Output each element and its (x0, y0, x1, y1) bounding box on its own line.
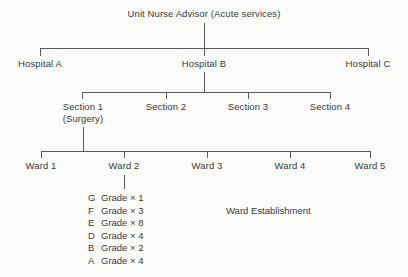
grade-row: G Grade × 1 (88, 192, 144, 205)
grade-letter: B (88, 242, 101, 255)
connector-section-bus (82, 92, 330, 93)
connector-section-1-to-wards (83, 127, 84, 151)
node-ward-4: Ward 4 (275, 160, 306, 172)
grade-row: D Grade × 4 (88, 230, 144, 243)
grade-letter: A (88, 255, 101, 268)
node-unit-nurse-advisor: Unit Nurse Advisor (Acute services) (128, 8, 281, 20)
node-ward-3: Ward 3 (192, 160, 223, 172)
connector-stub-section-3 (248, 92, 249, 99)
grade-row: F Grade × 3 (88, 205, 144, 218)
node-section-1-line2: (Surgery) (63, 113, 104, 125)
connector-stub-section-1 (82, 92, 83, 99)
node-ward-5: Ward 5 (355, 160, 386, 172)
node-hospital-a: Hospital A (18, 58, 62, 70)
ward-establishment-caption: Ward Establishment (226, 205, 311, 216)
grade-row: E Grade × 8 (88, 217, 144, 230)
grade-letter: E (88, 217, 101, 230)
grade-row: A Grade × 4 (88, 255, 144, 268)
node-hospital-b: Hospital B (182, 58, 226, 70)
grade-count: Grade × 8 (101, 217, 144, 230)
node-hospital-c: Hospital C (346, 58, 391, 70)
connector-ward-bus (41, 151, 370, 152)
connector-ward-2-to-establishment (124, 175, 125, 189)
node-ward-1: Ward 1 (26, 160, 57, 172)
connector-root-to-hospitals (204, 23, 205, 48)
node-section-4: Section 4 (310, 101, 351, 113)
org-chart-diagram: Unit Nurse Advisor (Acute services) Hosp… (0, 0, 408, 277)
connector-stub-section-4 (330, 92, 331, 99)
connector-hospital-b-to-sections (204, 72, 205, 92)
grade-letter: D (88, 230, 101, 243)
node-ward-2: Ward 2 (109, 160, 140, 172)
grade-count: Grade × 1 (101, 192, 144, 205)
node-section-3: Section 3 (228, 101, 269, 113)
connector-stub-section-2 (166, 92, 167, 99)
connector-stub-hospital-a (40, 48, 41, 56)
connector-stub-hospital-b (204, 48, 205, 56)
ward-establishment-grade-list: G Grade × 1 F Grade × 3 E Grade × 8 D Gr… (88, 192, 144, 268)
connector-stub-ward-5 (370, 151, 371, 158)
connector-stub-ward-3 (207, 151, 208, 158)
connector-stub-hospital-c (368, 48, 369, 56)
connector-stub-ward-2 (124, 151, 125, 158)
connector-stub-ward-4 (290, 151, 291, 158)
grade-count: Grade × 4 (101, 230, 144, 243)
grade-count: Grade × 3 (101, 205, 144, 218)
connector-stub-ward-1 (41, 151, 42, 158)
grade-letter: G (88, 192, 101, 205)
grade-letter: F (88, 205, 101, 218)
node-section-1: Section 1 (Surgery) (63, 101, 104, 125)
grade-count: Grade × 4 (101, 255, 144, 268)
grade-row: B Grade × 2 (88, 242, 144, 255)
grade-count: Grade × 2 (101, 242, 144, 255)
node-section-1-line1: Section 1 (63, 101, 104, 113)
node-section-2: Section 2 (146, 101, 187, 113)
